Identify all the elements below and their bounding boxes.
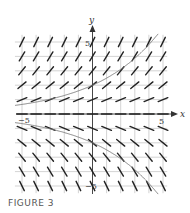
figure-caption: FIGURE 3	[8, 198, 54, 208]
slope-field-figure: x y −5 5 5 −5	[0, 0, 190, 196]
y-axis-arrow-icon	[90, 25, 96, 32]
x-max-tick-label: 5	[159, 117, 164, 126]
x-axis-label: x	[180, 109, 185, 119]
y-max-tick-label: 5	[85, 39, 90, 48]
x-axis-arrow-icon	[171, 111, 178, 117]
y-axis-label: y	[88, 15, 95, 25]
